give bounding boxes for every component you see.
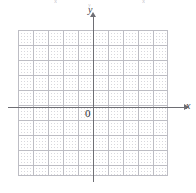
y-axis-label: y	[88, 5, 92, 15]
y-axis-line	[93, 14, 94, 182]
top-edge-artifact-right: x	[142, 0, 145, 4]
grid-right-edge	[167, 30, 168, 176]
figure-canvas: x y x x y 0	[0, 0, 196, 193]
origin-label: 0	[85, 108, 91, 119]
x-axis-line	[8, 107, 186, 108]
x-axis-label: x	[186, 101, 190, 111]
top-edge-artifact-left: x	[54, 0, 57, 4]
